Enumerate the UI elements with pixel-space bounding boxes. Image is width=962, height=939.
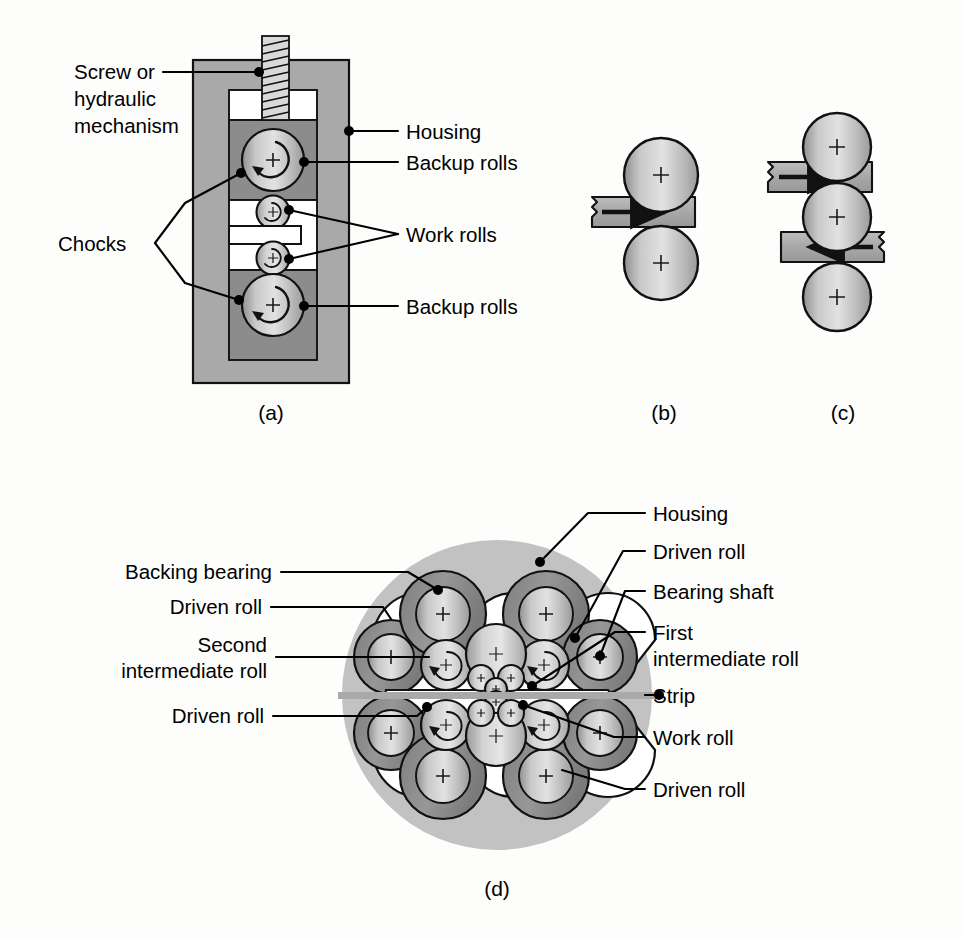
label-driven-roll-upper-right: Driven roll bbox=[653, 540, 745, 563]
label-driven-roll-upper-left: Driven roll bbox=[170, 595, 262, 618]
caption-c: (c) bbox=[831, 401, 856, 424]
second-intermediate-roll-ur bbox=[519, 640, 569, 690]
label-second-intermediate-line2: intermediate roll bbox=[121, 659, 267, 682]
workpiece-strip bbox=[229, 226, 301, 244]
label-first-intermediate-line2: intermediate roll bbox=[653, 647, 799, 670]
roll-c-middle bbox=[803, 183, 871, 251]
caption-b: (b) bbox=[651, 401, 677, 424]
roll-c-bottom bbox=[803, 263, 871, 331]
panel-a-four-high-mill: Screw or hydraulic mechanism Chocks Hous… bbox=[58, 36, 518, 424]
caption-a: (a) bbox=[258, 401, 284, 424]
caption-d: (d) bbox=[484, 877, 510, 900]
label-second-intermediate-line1: Second bbox=[197, 633, 267, 656]
label-backup-rolls-bottom: Backup rolls bbox=[406, 295, 518, 318]
label-work-roll-d: Work roll bbox=[653, 726, 734, 749]
label-driven-roll-lower-right: Driven roll bbox=[653, 778, 745, 801]
small-roll-ll bbox=[468, 700, 494, 726]
backup-roll-lower bbox=[242, 274, 304, 336]
label-bearing-shaft: Bearing shaft bbox=[653, 580, 774, 603]
panel-d-cluster-mill: Backing bearing Driven roll Second inter… bbox=[121, 502, 799, 900]
strip-d bbox=[338, 692, 658, 699]
rolling-mill-figure: Screw or hydraulic mechanism Chocks Hous… bbox=[0, 0, 962, 939]
label-screw-line3: mechanism bbox=[74, 114, 179, 137]
label-screw-line2: hydraulic bbox=[74, 87, 156, 110]
label-backup-rolls-top: Backup rolls bbox=[406, 151, 518, 174]
label-chocks: Chocks bbox=[58, 232, 126, 255]
panel-b-two-high-mill: (b) bbox=[592, 138, 698, 424]
label-driven-roll-lower-left: Driven roll bbox=[172, 704, 264, 727]
label-first-intermediate-line1: First bbox=[653, 621, 693, 644]
roll-c-top bbox=[803, 113, 871, 181]
label-work-rolls: Work rolls bbox=[406, 223, 497, 246]
roll-b-bottom bbox=[624, 226, 698, 300]
backup-roll-upper bbox=[242, 129, 304, 191]
label-screw-line1: Screw or bbox=[74, 60, 155, 83]
screw-mechanism bbox=[262, 36, 289, 120]
label-backing-bearing: Backing bearing bbox=[125, 560, 272, 583]
label-housing-d: Housing bbox=[653, 502, 728, 525]
panel-c-three-high-mill: (c) bbox=[768, 113, 884, 424]
roll-b-top bbox=[624, 138, 698, 212]
label-strip: Strip bbox=[653, 684, 695, 707]
label-housing-a: Housing bbox=[406, 120, 481, 143]
second-intermediate-roll-ul bbox=[421, 640, 471, 690]
leader-housing bbox=[344, 126, 398, 136]
